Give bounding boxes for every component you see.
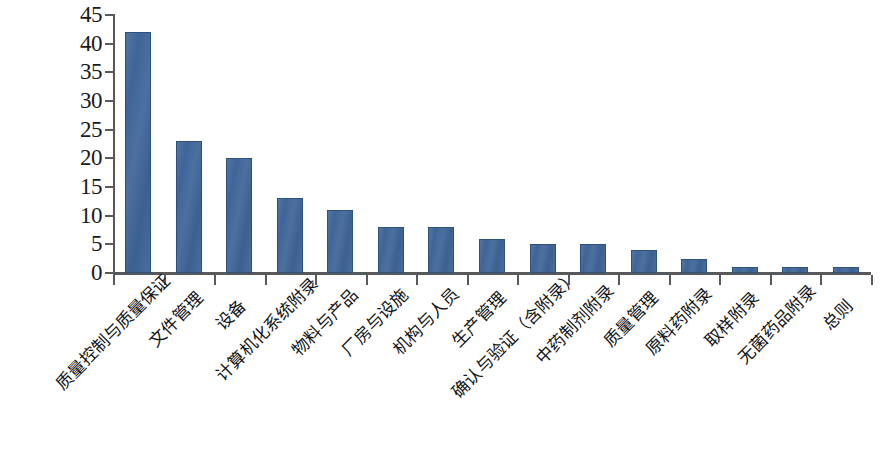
y-axis-tick-label: 10 xyxy=(56,204,102,227)
bar xyxy=(681,259,707,273)
y-axis-tick-labels: 051015202530354045 xyxy=(44,0,102,300)
bar xyxy=(176,141,202,273)
x-axis-tick xyxy=(770,275,772,285)
y-axis-tick-label: 25 xyxy=(56,118,102,141)
y-axis-tick xyxy=(105,14,113,16)
bar xyxy=(732,267,758,273)
bar xyxy=(327,210,353,273)
y-axis-tick xyxy=(105,157,113,159)
x-axis-tick xyxy=(871,275,873,285)
y-axis-line xyxy=(113,14,115,274)
x-axis-tick xyxy=(366,275,368,285)
x-axis-tick xyxy=(265,275,267,285)
bar xyxy=(580,244,606,273)
y-axis-tick xyxy=(105,43,113,45)
x-axis-category-label-text: 设备 xyxy=(213,297,250,334)
x-axis-tick xyxy=(820,275,822,285)
bar xyxy=(782,267,808,273)
bar xyxy=(631,250,657,273)
x-axis-tick xyxy=(214,275,216,285)
y-axis-tick xyxy=(105,243,113,245)
y-axis-tick xyxy=(105,186,113,188)
bar xyxy=(428,227,454,273)
y-axis-tick xyxy=(105,272,113,274)
y-axis-tick-label: 0 xyxy=(56,261,102,284)
x-axis-tick xyxy=(517,275,519,285)
bar xyxy=(125,32,151,273)
x-axis-tick xyxy=(416,275,418,285)
x-axis-category-label: 设备 xyxy=(213,297,250,334)
bar-chart: 051015202530354045 质量控制与质量保证文件管理设备计算机化系统… xyxy=(0,0,884,452)
y-axis-tick-label: 20 xyxy=(56,146,102,169)
x-axis-tick xyxy=(669,275,671,285)
x-axis-tick xyxy=(618,275,620,285)
y-axis-tick xyxy=(105,129,113,131)
y-axis-tick-label: 5 xyxy=(56,232,102,255)
y-axis-tick xyxy=(105,100,113,102)
x-axis-category-label: 总则 xyxy=(819,297,856,334)
y-axis-tick-label: 45 xyxy=(56,3,102,26)
bar xyxy=(833,267,859,273)
y-axis-tick-label: 15 xyxy=(56,175,102,198)
x-axis-tick xyxy=(467,275,469,285)
x-axis-tick xyxy=(719,275,721,285)
y-axis-tick-label: 30 xyxy=(56,89,102,112)
bar xyxy=(226,158,252,273)
bar xyxy=(378,227,404,273)
bar xyxy=(479,239,505,273)
bar xyxy=(530,244,556,273)
y-axis-tick-label: 35 xyxy=(56,60,102,83)
y-axis-tick xyxy=(105,215,113,217)
x-axis-tick xyxy=(113,275,115,285)
y-axis-tick xyxy=(105,71,113,73)
bar xyxy=(277,198,303,273)
x-axis-category-label-text: 总则 xyxy=(819,297,856,334)
y-axis-tick-label: 40 xyxy=(56,32,102,55)
